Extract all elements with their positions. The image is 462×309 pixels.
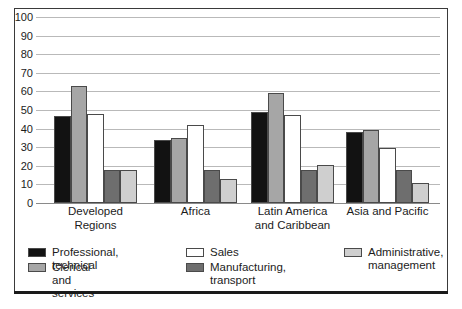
bar-groups bbox=[36, 17, 440, 203]
bar-group bbox=[346, 17, 429, 203]
y-axis-tick-label: 90 bbox=[3, 30, 33, 41]
y-axis-tick-label: 0 bbox=[3, 198, 33, 209]
legend-swatch-icon bbox=[186, 248, 204, 257]
bar bbox=[284, 115, 301, 203]
legend-item: Manufacturing, transport bbox=[186, 261, 286, 287]
bar bbox=[379, 148, 396, 203]
legend-label: Administrative, management bbox=[368, 246, 443, 272]
y-axis-tick-label: 20 bbox=[3, 160, 33, 171]
bar bbox=[268, 93, 285, 203]
bar bbox=[154, 140, 171, 203]
figure-border-right bbox=[447, 8, 448, 294]
bar bbox=[71, 86, 88, 203]
legend-item: Administrative, management bbox=[344, 246, 443, 272]
legend-item: Clerical and services bbox=[28, 261, 94, 300]
bar bbox=[346, 132, 363, 203]
legend-swatch-icon bbox=[28, 248, 46, 257]
bar bbox=[317, 165, 334, 203]
plot-area bbox=[36, 17, 440, 203]
legend-item: Sales bbox=[186, 246, 239, 259]
y-axis-tick-labels: 0102030405060708090100 bbox=[0, 17, 33, 203]
legend-swatch-icon bbox=[344, 248, 362, 257]
x-axis-baseline bbox=[36, 203, 440, 204]
legend-label: Sales bbox=[210, 246, 239, 259]
legend-swatch-icon bbox=[186, 263, 204, 272]
bar bbox=[204, 170, 221, 203]
y-axis-tick-label: 30 bbox=[3, 142, 33, 153]
y-axis-tick-label: 80 bbox=[3, 49, 33, 60]
bar bbox=[171, 138, 188, 203]
bar bbox=[220, 179, 237, 203]
x-axis-category-labels: Developed RegionsAfricaLatin America and… bbox=[36, 205, 440, 237]
bar-group bbox=[54, 17, 137, 203]
bar bbox=[187, 125, 204, 203]
y-axis-tick-label: 40 bbox=[3, 123, 33, 134]
bar bbox=[301, 170, 318, 203]
bar bbox=[412, 183, 429, 203]
bar bbox=[396, 170, 413, 203]
y-axis-tick-label: 50 bbox=[3, 105, 33, 116]
y-axis-tick-label: 70 bbox=[3, 67, 33, 78]
y-axis-tick-label: 10 bbox=[3, 179, 33, 190]
bar bbox=[104, 170, 121, 203]
bar bbox=[87, 114, 104, 203]
bar-chart-figure: 0102030405060708090100 Developed Regions… bbox=[0, 0, 462, 309]
legend-label: Manufacturing, transport bbox=[210, 261, 286, 287]
bar-group bbox=[251, 17, 334, 203]
bar bbox=[363, 130, 380, 203]
bar bbox=[54, 116, 71, 203]
bar bbox=[251, 112, 268, 203]
y-axis-tick-label: 60 bbox=[3, 86, 33, 97]
bar bbox=[120, 170, 137, 203]
legend-swatch-icon bbox=[28, 263, 46, 272]
legend-label: Clerical and services bbox=[52, 261, 94, 300]
x-axis-category-label: Asia and Pacific bbox=[328, 205, 448, 219]
bar-group bbox=[154, 17, 237, 203]
chart-legend: Professional, technicalClerical and serv… bbox=[28, 246, 438, 288]
y-axis-tick-label: 100 bbox=[3, 12, 33, 23]
figure-border-top bbox=[14, 8, 448, 9]
